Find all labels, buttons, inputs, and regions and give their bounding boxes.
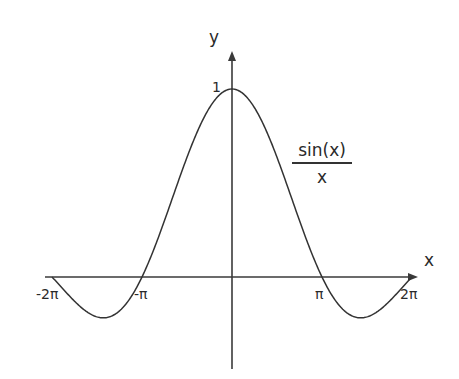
- y-axis-label: y: [209, 29, 219, 46]
- x-tick-pi: π: [315, 287, 323, 301]
- annotation-denominator: x: [292, 167, 352, 187]
- sinc-plot: [0, 0, 459, 379]
- x-tick-neg-2pi: -2π: [36, 287, 58, 301]
- annotation-numerator: sin(x): [292, 140, 352, 160]
- x-axis-label: x: [424, 252, 434, 269]
- y-axis-arrow-icon: [228, 51, 236, 61]
- x-tick-neg-pi: -π: [134, 287, 147, 301]
- y-tick-1: 1: [212, 80, 221, 94]
- fraction-bar: [292, 162, 352, 164]
- curve-annotation: sin(x) x: [292, 140, 352, 187]
- x-tick-2pi: 2π: [400, 287, 417, 301]
